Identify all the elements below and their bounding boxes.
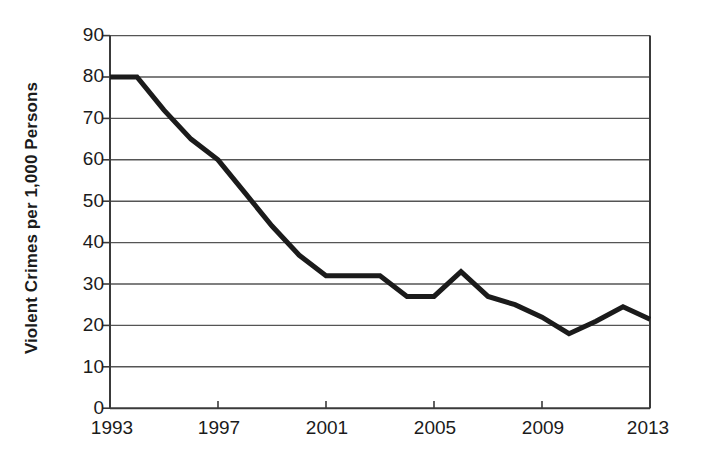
x-tick-2013: 2013 — [608, 418, 688, 437]
x-tick-labels: 1993 1997 2001 2005 2009 2013 — [0, 0, 705, 473]
x-tick-2005: 2005 — [395, 418, 475, 437]
x-tick-2009: 2009 — [503, 418, 583, 437]
line-chart: Violent Crimes per 1,000 Persons — [0, 0, 705, 473]
x-tick-1993: 1993 — [72, 418, 152, 437]
x-tick-1997: 1997 — [179, 418, 259, 437]
x-tick-2001: 2001 — [287, 418, 367, 437]
